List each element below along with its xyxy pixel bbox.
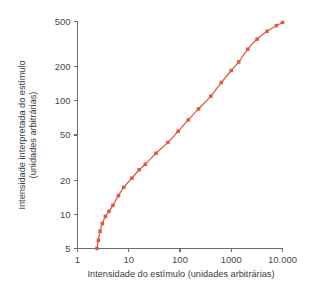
data-point [209,94,213,98]
x-tick-label-100: 100 [172,254,188,265]
y-tick-label-50: 50 [60,129,71,140]
data-point [275,24,279,28]
x-tick-label-10000: 10.000 [268,254,297,265]
data-point [117,194,121,198]
data-point [144,163,148,167]
x-tick-label-1000: 1000 [221,254,242,265]
data-point [98,229,102,233]
data-point [220,81,224,85]
plot-background [0,0,318,286]
data-point [187,118,191,122]
data-point [95,247,99,251]
data-point [265,30,269,33]
x-tick-label-1: 1 [75,254,80,265]
data-point [97,239,101,243]
y-tick-label-20: 20 [60,175,71,186]
data-point [111,204,115,208]
data-point [230,69,234,73]
y-tick-label-5: 5 [65,243,70,254]
y-tick-label-10: 10 [60,209,71,220]
data-point [130,176,134,180]
x-tick-label-10: 10 [123,254,134,265]
data-point [237,60,241,64]
data-point [107,210,111,214]
y-tick-label-500: 500 [55,16,71,27]
data-point [104,215,108,219]
y-tick-label-100: 100 [55,95,71,106]
stimulus-response-log-log-plot: 5102050100200500 110100100010.000 Intens… [0,0,318,286]
data-point [176,129,180,133]
x-axis-title: Intensidade do estímulo (unidades arbitr… [88,269,275,279]
data-point [281,21,285,25]
y-axis-title-line-1: Intensidade interpretada do estímulo [17,60,27,209]
data-point [137,168,141,172]
data-point [255,37,259,41]
data-point [197,107,201,111]
data-point [122,186,126,190]
data-point [154,152,158,156]
y-axis-title-line-2: (unidades arbitrárias) [28,92,38,179]
chart-figure: 5102050100200500 110100100010.000 Intens… [0,0,318,286]
data-point [101,222,105,226]
data-point [166,141,170,145]
y-tick-label-200: 200 [55,61,71,72]
data-point [246,47,250,51]
